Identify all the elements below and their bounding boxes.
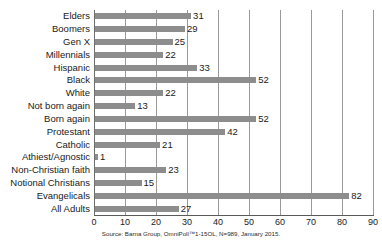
category-label: Hispanic <box>54 63 90 73</box>
category-label: White <box>66 88 90 98</box>
x-tick-label: 30 <box>182 217 192 227</box>
bar-value-label: 82 <box>351 191 362 201</box>
bar <box>95 65 197 71</box>
x-tick-label: 40 <box>213 217 223 227</box>
bar <box>95 26 185 32</box>
bar-value-label: 15 <box>144 178 155 188</box>
x-tick-label: 50 <box>244 217 254 227</box>
bar-value-label: 31 <box>193 11 204 21</box>
bar <box>95 142 160 148</box>
bar-value-label: 27 <box>181 204 192 214</box>
bar-row: Gen X25 <box>94 36 373 49</box>
bar-row: Notional Christians15 <box>94 177 373 190</box>
bar-value-label: 21 <box>162 140 173 150</box>
bar-row: Boomers29 <box>94 23 373 36</box>
bar-value-label: 22 <box>165 88 176 98</box>
bar-row: Hispanic33 <box>94 61 373 74</box>
bar <box>95 206 179 212</box>
category-label: Athiest/Agnostic <box>22 152 90 162</box>
bar-row: Millennials22 <box>94 48 373 61</box>
bar <box>95 52 163 58</box>
bar <box>95 180 142 186</box>
bar <box>95 103 135 109</box>
bar-value-label: 52 <box>258 114 269 124</box>
bar-value-label: 52 <box>258 75 269 85</box>
bar-value-label: 23 <box>168 165 179 175</box>
bar <box>95 77 256 83</box>
bar <box>95 193 349 199</box>
category-label: Catholic <box>56 140 90 150</box>
bar <box>95 39 173 45</box>
bar-row: Born again52 <box>94 113 373 126</box>
bar-value-label: 13 <box>137 101 148 111</box>
x-tick-label: 20 <box>151 217 161 227</box>
bar-value-label: 25 <box>175 37 186 47</box>
bar <box>95 116 256 122</box>
category-label: Black <box>67 75 90 85</box>
bar-row: Black52 <box>94 74 373 87</box>
category-label: Gen X <box>63 37 90 47</box>
bar-value-label: 33 <box>199 63 210 73</box>
x-axis-line <box>94 215 374 216</box>
category-label: Non-Christian faith <box>11 165 90 175</box>
bar-row: Athiest/Agnostic1 <box>94 151 373 164</box>
category-label: Born again <box>44 114 90 124</box>
bar-row: All Adults27 <box>94 202 373 215</box>
x-tick-label: 60 <box>275 217 285 227</box>
category-label: Not born again <box>28 101 90 111</box>
category-label: Evangelicals <box>37 191 90 201</box>
category-label: Protestant <box>47 127 90 137</box>
bar-row: Non-Christian faith23 <box>94 164 373 177</box>
bar <box>95 90 163 96</box>
x-tick-label: 80 <box>337 217 347 227</box>
bar-row: White22 <box>94 87 373 100</box>
plot-area: Elders31Boomers29Gen X25Millennials22His… <box>94 10 373 215</box>
bar <box>95 154 98 160</box>
source-note: Source: Barna Group, OmniPoll™1-15OL, N=… <box>0 230 382 238</box>
category-label: Notional Christians <box>10 178 90 188</box>
bar <box>95 129 225 135</box>
bar-row: Protestant42 <box>94 125 373 138</box>
x-tick-label: 0 <box>91 217 96 227</box>
x-tick-label: 10 <box>120 217 130 227</box>
category-label: Boomers <box>52 24 90 34</box>
bar-value-label: 29 <box>187 24 198 34</box>
bar-row: Not born again13 <box>94 100 373 113</box>
x-tick-label: 90 <box>368 217 378 227</box>
category-label: Millennials <box>46 50 90 60</box>
category-label: All Adults <box>51 204 90 214</box>
gridline-90 <box>373 10 374 215</box>
bar-row: Catholic21 <box>94 138 373 151</box>
bar-row: Elders31 <box>94 10 373 23</box>
bar <box>95 13 191 19</box>
bar-chart: Elders31Boomers29Gen X25Millennials22His… <box>0 0 382 242</box>
x-tick-label: 70 <box>306 217 316 227</box>
bar <box>95 167 166 173</box>
bar-value-label: 1 <box>100 152 105 162</box>
bar-value-label: 42 <box>227 127 238 137</box>
bar-row: Evangelicals82 <box>94 189 373 202</box>
bar-value-label: 22 <box>165 50 176 60</box>
category-label: Elders <box>63 11 90 21</box>
